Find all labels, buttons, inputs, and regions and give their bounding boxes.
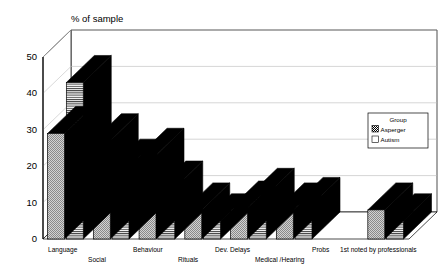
cat-label-behaviour: Behaviour (133, 246, 163, 253)
legend-label-autism: Autism (381, 136, 400, 143)
cat-label-social: Social (88, 256, 106, 263)
x-axis-title: 1st noted by professionals (340, 246, 417, 254)
y-tick-label-30: 30 (26, 124, 37, 135)
y-tick-label-10: 10 (26, 197, 37, 208)
bar-front-face (48, 133, 65, 239)
cat-label-dev-delays: Dev. Delays (215, 246, 251, 254)
y-tick-label-20: 20 (26, 160, 37, 171)
chart-container: 50 40 30 20 10 0 % of sample Language So… (0, 0, 447, 274)
cat-label-probs: Probs (312, 246, 330, 253)
bar-chart-3d: 50 40 30 20 10 0 % of sample Language So… (0, 0, 447, 274)
legend-swatch-autism (372, 136, 379, 143)
y-tick-label-50: 50 (26, 51, 37, 62)
bar-front-face (368, 210, 385, 239)
legend-swatch-asperger (372, 126, 379, 133)
legend[interactable]: Group Asperger Autism (368, 113, 428, 148)
y-tick-label-40: 40 (26, 87, 37, 98)
legend-item-autism[interactable]: Autism (372, 136, 399, 143)
chart-title: % of sample (71, 13, 123, 24)
y-tick-label-0: 0 (32, 233, 37, 244)
legend-label-asperger: Asperger (381, 126, 406, 133)
legend-item-asperger[interactable]: Asperger (372, 126, 406, 133)
cat-label-medical-hearing: Medical /Hearing (255, 256, 305, 264)
cat-label-language: Language (48, 246, 78, 254)
legend-title: Group (389, 116, 407, 123)
cat-label-rituals: Rituals (178, 256, 199, 263)
